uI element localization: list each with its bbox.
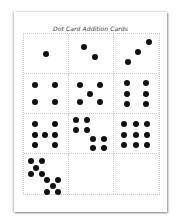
dot-icon — [84, 117, 90, 123]
dot-icon — [143, 91, 149, 97]
dot-icon — [135, 49, 141, 55]
dot-icon — [101, 136, 107, 142]
dot-icon — [125, 59, 131, 65]
dot-icon — [32, 121, 38, 127]
dot-icon — [42, 132, 48, 138]
dot-card-10 — [24, 154, 69, 194]
dot-icon — [73, 127, 79, 133]
dot-card-11 — [69, 154, 114, 194]
dot-icon — [124, 80, 130, 86]
dot-icon — [92, 54, 98, 60]
dot-icon — [133, 142, 139, 148]
dot-icon — [81, 44, 87, 50]
dot-icon — [97, 82, 103, 88]
dot-icon — [84, 127, 90, 133]
dot-icon — [144, 142, 150, 148]
dot-icon — [55, 177, 61, 183]
dot-card-3 — [114, 34, 159, 74]
dot-card-8 — [69, 114, 114, 154]
dot-icon — [121, 121, 127, 127]
dot-icon — [77, 82, 83, 88]
dot-icon — [124, 91, 130, 97]
dot-card-grid — [23, 33, 160, 195]
dot-icon — [52, 142, 58, 148]
dot-card-2 — [69, 34, 114, 74]
dot-icon — [43, 51, 49, 57]
dot-icon — [32, 82, 38, 88]
dot-icon — [39, 158, 45, 164]
worksheet-page: Dot Card Addition Cards — [14, 12, 167, 212]
dot-icon — [55, 189, 61, 195]
dot-icon — [32, 142, 38, 148]
dot-icon — [32, 99, 38, 105]
dot-card-9 — [114, 114, 159, 154]
dot-icon — [28, 158, 34, 164]
dot-icon — [133, 121, 139, 127]
dot-icon — [97, 99, 103, 105]
dot-icon — [90, 145, 96, 151]
dot-icon — [52, 132, 58, 138]
dot-icon — [28, 171, 34, 177]
dot-icon — [144, 121, 150, 127]
page-title: Dot Card Addition Cards — [14, 25, 167, 32]
dot-icon — [44, 177, 50, 183]
dot-icon — [32, 132, 38, 138]
dot-icon — [143, 80, 149, 86]
dot-card-1 — [24, 34, 69, 74]
dot-card-6 — [114, 74, 159, 114]
dot-icon — [39, 171, 45, 177]
dot-icon — [50, 183, 56, 189]
dot-icon — [121, 132, 127, 138]
dot-card-12 — [114, 154, 159, 194]
dot-icon — [146, 39, 152, 45]
dot-icon — [52, 99, 58, 105]
dot-card-7 — [24, 114, 69, 154]
dot-icon — [143, 101, 149, 107]
dot-icon — [90, 136, 96, 142]
dot-icon — [133, 132, 139, 138]
dot-icon — [124, 101, 130, 107]
dot-icon — [44, 189, 50, 195]
dot-icon — [33, 165, 39, 171]
dot-icon — [52, 121, 58, 127]
dot-icon — [52, 82, 58, 88]
dot-icon — [87, 91, 93, 97]
dot-icon — [144, 132, 150, 138]
dot-icon — [121, 142, 127, 148]
dot-icon — [101, 145, 107, 151]
dot-icon — [73, 117, 79, 123]
dot-icon — [77, 99, 83, 105]
dot-card-5 — [69, 74, 114, 114]
dot-card-4 — [24, 74, 69, 114]
